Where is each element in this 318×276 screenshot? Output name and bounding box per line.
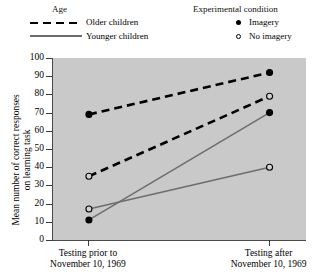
- legend-condition-title: Experimental condition: [193, 4, 292, 15]
- legend-label-no-imagery: No imagery: [249, 31, 292, 42]
- y-axis-title: Mean number of correct responseson learn…: [11, 60, 33, 260]
- legend-item-younger-children: Younger children: [30, 31, 148, 42]
- legend-age: Age Older children Younger children: [30, 4, 148, 42]
- chart-figure: Age Older children Younger children Expe…: [0, 0, 318, 276]
- x-tick-label: Testing prior toNovember 10, 1969: [50, 248, 126, 271]
- data-point-marker: [267, 93, 273, 99]
- series-line: [89, 73, 270, 115]
- legend-label-imagery: Imagery: [249, 17, 279, 28]
- series-line: [89, 113, 270, 220]
- legend-experimental-condition: Experimental condition Imagery No imager…: [193, 4, 292, 42]
- legend-item-imagery: Imagery: [193, 17, 292, 28]
- legend-item-no-imagery: No imagery: [193, 31, 292, 42]
- legend-item-older-children: Older children: [30, 17, 148, 28]
- series-line: [89, 167, 270, 209]
- legend-label-older-children: Older children: [86, 17, 138, 28]
- data-point-marker: [267, 164, 273, 170]
- data-point-marker: [86, 111, 92, 117]
- x-tick-label: Testing afterNovember 10, 1969: [231, 248, 307, 271]
- data-point-marker: [86, 206, 92, 212]
- data-point-marker: [86, 217, 92, 223]
- data-point-marker: [86, 173, 92, 179]
- filled-circle-icon: [236, 20, 241, 25]
- x-tick-label-line: Testing after: [231, 248, 307, 259]
- x-tick-mark: [269, 240, 270, 246]
- data-point-marker: [267, 70, 273, 76]
- x-tick-mark: [88, 240, 89, 246]
- open-circle-icon: [236, 34, 241, 39]
- filled-circle-marker-cell: [193, 20, 245, 25]
- open-circle-marker-cell: [193, 34, 245, 39]
- x-tick-label-line: November 10, 1969: [50, 259, 126, 270]
- data-point-marker: [267, 110, 273, 116]
- legend-label-younger-children: Younger children: [86, 31, 148, 42]
- x-tick-label-line: Testing prior to: [50, 248, 126, 259]
- x-tick-label-line: November 10, 1969: [231, 259, 307, 270]
- y-axis-title-line: on learning task: [22, 60, 33, 260]
- legend-age-title: Age: [30, 4, 148, 15]
- plot-series-svg: [53, 58, 306, 240]
- y-axis-title-line: Mean number of correct responses: [11, 60, 22, 260]
- plot-area: [52, 58, 306, 241]
